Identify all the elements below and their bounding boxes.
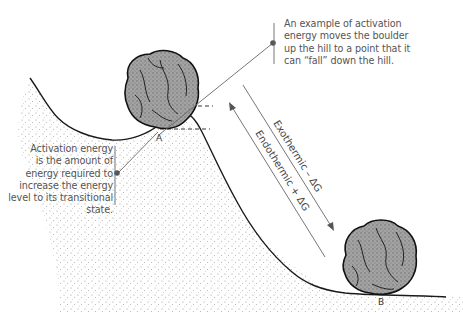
boulder-a <box>125 51 198 129</box>
callout-line: energy required to <box>0 168 113 180</box>
callout-line: up the hill to a point that it <box>284 43 463 55</box>
callout-line: energy moves the boulder <box>284 30 463 42</box>
activation-energy-diagram: Exothermic – ΔG Endothermic + ΔG An exam… <box>0 0 463 313</box>
point-a-label: A <box>156 133 162 143</box>
callout-top-right: An example of activation energy moves th… <box>284 18 463 67</box>
callout-line: An example of activation <box>284 18 463 30</box>
callout-line: Activation energy <box>0 143 113 155</box>
point-b-label: B <box>378 297 384 307</box>
callout-left: Activation energy is the amount of energ… <box>0 143 113 217</box>
callout-line: level to its transitional <box>0 192 113 204</box>
boulder-b <box>343 220 416 294</box>
callout-line: is the amount of <box>0 155 113 167</box>
callout-line: can “fall” down the hill. <box>284 55 463 67</box>
exothermic-arrow: Exothermic – ΔG <box>243 85 334 231</box>
callout-line: increase the energy <box>0 180 113 192</box>
callout-line: state. <box>0 204 113 216</box>
